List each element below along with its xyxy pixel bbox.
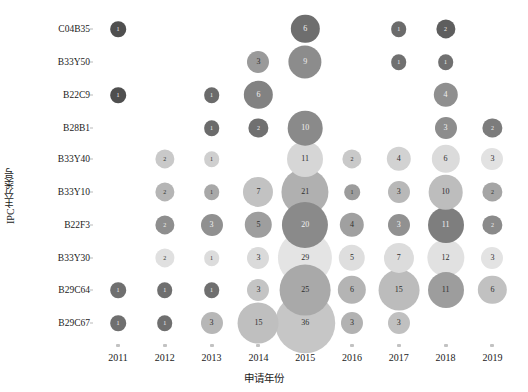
x-tick-label-2017: 2017 [376,352,422,363]
bubble-b33y30-2016: 5 [339,245,365,271]
x-tick-label-2013: 2013 [189,352,235,363]
bubble-c04b35-2015: 6 [291,15,319,43]
bubble-b33y10-2019: 2 [483,182,502,201]
x-tick-mark [444,344,448,347]
x-tick-mark [116,344,120,347]
x-tick-label-2019: 2019 [469,352,515,363]
bubble-b33y40-2015: 11 [287,141,323,177]
bubble-b29c64-2011: 1 [110,282,126,298]
bubble-b33y40-2012: 2 [155,149,174,168]
bubble-b29c67-2016: 3 [341,312,363,334]
x-tick-label-2018: 2018 [423,352,469,363]
bubble-b33y10-2014: 7 [243,177,273,207]
bubble-chart: IPC主分类号 申请年份 C04B35B33Y50B22C9B28B1B33Y4… [0,0,528,392]
bubble-b29c64-2017: 15 [378,270,419,311]
bubble-b33y50-2018: 1 [438,54,454,70]
bubble-b33y10-2013: 1 [204,184,220,200]
bubble-b29c67-2013: 3 [201,312,223,334]
bubble-b29c67-2014: 15 [238,303,279,344]
bubble-b33y10-2017: 3 [388,181,410,203]
bubble-b33y30-2013: 1 [204,250,220,266]
plot-area: 3629252120151512111111101097766666554443… [0,0,528,344]
bubble-b22c9-2014: 6 [244,81,272,109]
bubble-b29c64-2018: 11 [428,272,464,308]
x-tick-mark [163,344,167,347]
bubble-b33y10-2018: 10 [428,175,463,210]
bubble-b33y10-2016: 1 [344,184,360,200]
bubble-b33y40-2016: 2 [342,149,361,168]
bubble-b33y10-2012: 2 [155,182,174,201]
bubble-b22f3-2016: 4 [340,213,364,237]
bubble-b22f3-2017: 3 [388,214,410,236]
bubble-b33y50-2017: 1 [391,54,407,70]
bubble-b33y30-2019: 3 [481,247,503,269]
bubble-b28b1-2019: 2 [483,118,502,137]
bubble-b28b1-2018: 3 [435,117,457,139]
bubble-b33y30-2012: 2 [155,248,174,267]
bubble-b28b1-2014: 2 [249,118,268,137]
bubble-b28b1-2015: 10 [288,111,323,146]
x-axis-title: 申请年份 [0,370,528,385]
bubble-b29c67-2011: 1 [110,315,126,331]
bubble-c04b35-2018: 2 [436,19,455,38]
bubble-b29c64-2014: 3 [247,279,269,301]
bubble-b33y30-2017: 7 [384,243,414,273]
bubble-b22c9-2018: 4 [433,83,457,107]
bubble-b22f3-2018: 11 [428,207,464,243]
bubble-b33y40-2017: 4 [387,147,411,171]
bubble-b22c9-2011: 1 [110,87,126,103]
bubble-b33y40-2013: 1 [204,151,220,167]
bubble-b29c67-2017: 3 [388,312,410,334]
bubble-b33y40-2018: 6 [431,145,459,173]
x-tick-mark [256,344,260,347]
x-tick-label-2016: 2016 [329,352,375,363]
bubble-b28b1-2013: 1 [204,120,220,136]
bubble-b22f3-2012: 2 [155,215,174,234]
bubble-b29c64-2019: 6 [478,276,506,304]
bubble-c04b35-2011: 1 [110,21,126,37]
x-tick-label-2011: 2011 [95,352,141,363]
x-tick-label-2014: 2014 [235,352,281,363]
bubble-b33y50-2014: 3 [247,51,269,73]
bubble-b33y30-2014: 3 [247,247,269,269]
x-tick-mark [397,344,401,347]
x-tick-label-2012: 2012 [142,352,188,363]
x-tick-mark [490,344,494,347]
bubble-c04b35-2017: 1 [391,21,407,37]
bubble-b29c64-2016: 6 [338,276,366,304]
bubble-b33y50-2015: 9 [289,45,322,78]
x-tick-mark [210,344,214,347]
bubble-b29c67-2012: 1 [157,315,173,331]
bubble-b22f3-2013: 3 [201,214,223,236]
bubble-b29c64-2013: 1 [204,282,220,298]
x-tick-label-2015: 2015 [282,352,328,363]
bubble-b33y40-2019: 3 [481,148,503,170]
bubble-b29c64-2015: 25 [280,265,331,316]
x-tick-mark [350,344,354,347]
bubble-b22f3-2014: 5 [245,212,271,238]
bubble-b29c64-2012: 1 [157,282,173,298]
bubble-b22f3-2015: 20 [282,202,328,248]
bubble-b22f3-2019: 2 [483,215,502,234]
bubble-b22c9-2013: 1 [204,87,220,103]
